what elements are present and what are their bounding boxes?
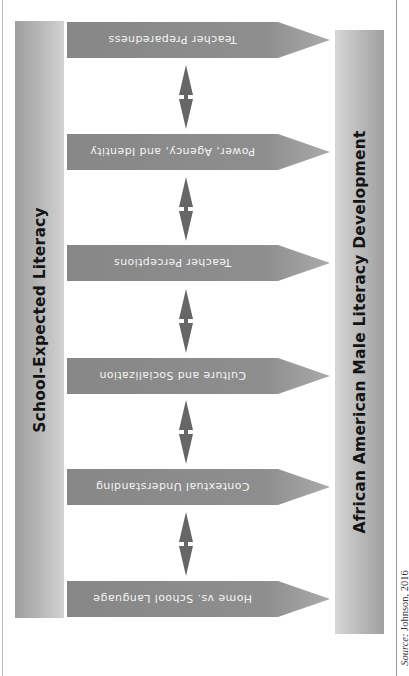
double-arrow-icon bbox=[179, 512, 193, 576]
source-value: Johnson, 2016 bbox=[398, 570, 409, 633]
arrow-home-vs-school-language: Home vs. School Language bbox=[67, 581, 330, 617]
arrow-label: Home vs. School Language bbox=[67, 581, 278, 617]
african-american-male-literacy-bar: African American Male Literacy Developme… bbox=[335, 30, 384, 634]
source-citation: Source: Johnson, 2016 bbox=[398, 560, 409, 676]
double-arrow-icon bbox=[179, 177, 193, 241]
source-text: Source: Johnson, 2016 bbox=[398, 570, 409, 666]
arrow-label: Culture and Socialization bbox=[67, 358, 278, 394]
right-bar-label: African American Male Literacy Developme… bbox=[351, 130, 369, 533]
frame-left-border bbox=[2, 0, 3, 676]
double-arrow-icon bbox=[179, 65, 193, 129]
arrow-teacher-preparedness: Teacher Preparedness bbox=[67, 22, 330, 58]
frame-right-border bbox=[396, 0, 397, 676]
arrow-label: Teacher Perceptions bbox=[67, 245, 278, 281]
arrow-label: Power, Agency, and Identity bbox=[67, 134, 278, 170]
arrow-teacher-perceptions: Teacher Perceptions bbox=[67, 245, 330, 281]
arrow-contextual-understanding: Contextual Understanding bbox=[67, 469, 330, 505]
arrow-culture-socialization: Culture and Socialization bbox=[67, 358, 330, 394]
source-prefix: Source: bbox=[398, 634, 409, 666]
double-arrow-icon bbox=[179, 289, 193, 353]
arrow-label: Contextual Understanding bbox=[67, 469, 278, 505]
arrow-power-agency-identity: Power, Agency, and Identity bbox=[67, 134, 330, 170]
school-expected-literacy-bar: School-Expected Literacy bbox=[15, 21, 64, 618]
left-bar-label: School-Expected Literacy bbox=[31, 207, 49, 433]
arrow-label: Teacher Preparedness bbox=[67, 22, 278, 58]
double-arrow-icon bbox=[179, 400, 193, 464]
